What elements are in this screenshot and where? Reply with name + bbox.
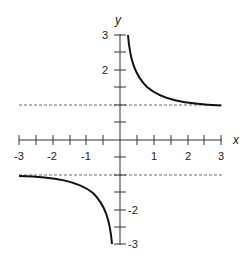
y-tick-label-2: 2	[102, 64, 108, 76]
curve-right-branch	[128, 35, 221, 106]
y-axis-label: y	[114, 13, 122, 27]
y-tick-label-neg2: -2	[128, 204, 138, 216]
y-tick-label-neg3: -3	[128, 238, 138, 250]
x-tick-label-neg2: -2	[47, 150, 57, 162]
x-tick-label-3: 3	[218, 150, 224, 162]
curve-left-branch	[19, 176, 112, 244]
y-tick-label-3: 3	[102, 29, 108, 41]
x-tick-label-neg1: -1	[81, 150, 91, 162]
x-tick-label-neg3: -3	[14, 150, 24, 162]
x-tick-label-2: 2	[185, 150, 191, 162]
x-axis-label: x	[232, 133, 240, 147]
x-tick-label-1: 1	[151, 150, 157, 162]
function-graph: -3 -2 -1 1 2 3 3 2 -2 -3 x y	[0, 0, 251, 261]
